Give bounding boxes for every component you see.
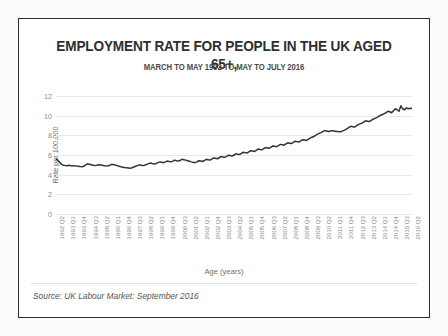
x-axis-tick-label: 1996 Q1 bbox=[114, 216, 121, 239]
x-axis-tick-label: 2006 Q3 bbox=[270, 216, 277, 239]
x-axis-tick-label: 2004 Q2 bbox=[236, 216, 243, 239]
x-axis-tick-label: 1997 Q3 bbox=[136, 216, 143, 239]
x-axis-tick-label: 2005 Q4 bbox=[258, 216, 265, 239]
x-axis-tick-label: 2008 Q4 bbox=[303, 216, 310, 239]
x-axis-tick-label: 1994 Q3 bbox=[92, 216, 99, 239]
x-axis-tick-label: 1992 Q2 bbox=[58, 216, 65, 239]
chart-subtitle: MARCH TO MAY 1992 TO MAY TO JULY 2016 bbox=[40, 62, 409, 72]
y-axis-tick-label: 8 bbox=[48, 131, 52, 140]
x-axis-tick-label: 2003 Q3 bbox=[225, 216, 232, 239]
x-axis-tick-label: 1999 Q4 bbox=[169, 216, 176, 239]
x-axis-tick-label: 2012 Q3 bbox=[359, 216, 366, 239]
x-axis-label: Age (years) bbox=[19, 267, 429, 276]
x-axis-tick-label: 2014 Q1 bbox=[381, 216, 388, 239]
x-axis-tick-label: 2005 Q1 bbox=[247, 216, 254, 239]
x-axis-tick-label: 1995 Q2 bbox=[103, 216, 110, 239]
x-axis-tick-label: 2008 Q1 bbox=[292, 216, 299, 239]
x-axis-tick-label: 2014 Q4 bbox=[392, 216, 399, 239]
x-axis-tick-label: 2009 Q3 bbox=[314, 216, 321, 239]
x-axis-tick-label: 2015 Q3 bbox=[403, 216, 410, 239]
x-axis-tick-label: 2002 Q4 bbox=[214, 216, 221, 239]
source-note: Source: UK Labour Market: September 2016 bbox=[33, 291, 199, 301]
x-axis-tick-label: 1993 Q4 bbox=[80, 216, 87, 239]
y-axis-tick-label: 4 bbox=[48, 170, 52, 179]
x-axis-tick-label: 2001 Q2 bbox=[192, 216, 199, 239]
x-axis-tick-label: 1999 Q1 bbox=[158, 216, 165, 239]
chart-page: EMPLOYMENT RATE FOR PEOPLE IN THE UK AGE… bbox=[0, 0, 448, 336]
data-line bbox=[56, 96, 412, 214]
y-axis-tick-label: 10 bbox=[44, 111, 52, 120]
y-axis-tick-label: 12 bbox=[44, 92, 52, 101]
x-axis-tick-label: 2013 Q2 bbox=[370, 216, 377, 239]
plot-area: Rate per 100,000 024681012 bbox=[56, 96, 412, 214]
x-axis-tick-label: 1993 Q1 bbox=[69, 216, 76, 239]
source-divider bbox=[31, 283, 417, 284]
x-axis-tick-label: 2002 Q1 bbox=[203, 216, 210, 239]
x-axis-tick-label: 2016 Q2 bbox=[414, 216, 421, 239]
y-axis-tick-label: 6 bbox=[48, 151, 52, 160]
x-axis-tick-label: 2010 Q2 bbox=[325, 216, 332, 239]
x-axis-tick-label: 2011 Q1 bbox=[336, 216, 343, 239]
gridline bbox=[56, 214, 412, 215]
x-axis-tick-label: 1996 Q4 bbox=[125, 216, 132, 239]
x-axis-tick-label: 2011 Q4 bbox=[347, 216, 354, 239]
x-axis-tick-label: 2000 Q3 bbox=[181, 216, 188, 239]
x-axis-tick-label: 2007 Q2 bbox=[281, 216, 288, 239]
y-axis-tick-label: 2 bbox=[48, 190, 52, 199]
x-axis-tick-label: 1998 Q2 bbox=[147, 216, 154, 239]
y-axis-tick-label: 0 bbox=[48, 210, 52, 219]
x-axis-ticks: 1992 Q21993 Q11993 Q41994 Q31995 Q21996 … bbox=[56, 216, 412, 266]
chart-frame: EMPLOYMENT RATE FOR PEOPLE IN THE UK AGE… bbox=[18, 18, 430, 318]
